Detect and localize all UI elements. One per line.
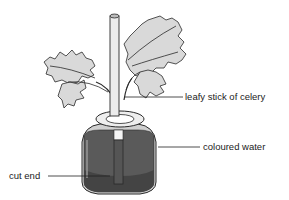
left-leaf (44, 50, 108, 108)
right-leaf (124, 16, 186, 98)
label-coloured-water: coloured water (203, 141, 265, 152)
label-celery: leafy stick of celery (185, 91, 265, 102)
label-cut-end: cut end (9, 170, 40, 181)
